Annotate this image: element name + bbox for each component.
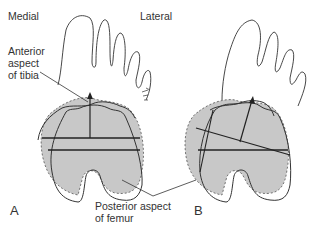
diagram-drawing bbox=[0, 0, 318, 226]
panel-b-label: B bbox=[194, 203, 203, 218]
foot-outline-b bbox=[222, 20, 306, 106]
panel-a-label: A bbox=[10, 203, 19, 218]
anterior-tibia-line3: of tibia bbox=[8, 69, 45, 81]
panel-b-drawing bbox=[185, 20, 306, 202]
anterior-tibia-line1: Anterior bbox=[8, 45, 45, 57]
posterior-femur-line1: Posterior aspect bbox=[95, 200, 171, 212]
posterior-femur-label: Posterior aspect of femur bbox=[95, 200, 171, 224]
lateral-label: Lateral bbox=[140, 10, 172, 22]
knee-alignment-diagram: Medial Lateral Anterior aspect of tibia … bbox=[0, 0, 318, 226]
posterior-femur-leader-b bbox=[153, 180, 196, 196]
anterior-tibia-leader bbox=[40, 72, 88, 102]
panel-a-drawing bbox=[38, 16, 151, 202]
tibial-plateau-a bbox=[41, 98, 143, 195]
medial-label: Medial bbox=[8, 10, 39, 22]
anterior-tibia-label: Anterior aspect of tibia bbox=[8, 45, 45, 81]
posterior-femur-line2: of femur bbox=[95, 212, 171, 224]
foot-outline-a bbox=[58, 16, 151, 100]
anterior-tibia-line2: aspect bbox=[8, 57, 45, 69]
